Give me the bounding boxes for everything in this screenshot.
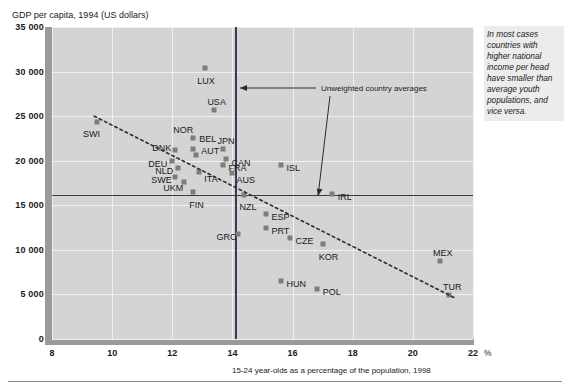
gridline-horizontal xyxy=(52,339,473,340)
y-axis-title: GDP per capita, 1994 (US dollars) xyxy=(12,10,148,20)
y-axis-tick-label: 25 000 xyxy=(0,111,52,121)
x-axis-tick-label: 22 xyxy=(468,348,478,358)
chart-figure: GDP per capita, 1994 (US dollars) SWILUX… xyxy=(0,0,570,388)
note-box: In most cases countries with higher nati… xyxy=(484,26,564,121)
callout-label: Unweighted country averages xyxy=(321,84,427,93)
y-axis-tick-label: 35 000 xyxy=(0,22,52,32)
x-axis-title: 15-24 year-olds as a percentage of the p… xyxy=(232,366,431,375)
y-axis-tick-label: 20 000 xyxy=(0,156,52,166)
y-axis-tick-label: 15 000 xyxy=(0,200,52,210)
x-axis-tick-label: 8 xyxy=(49,348,54,358)
gridline-vertical xyxy=(473,27,474,339)
x-axis-tick-label: 18 xyxy=(348,348,358,358)
y-axis-tick-label: 10 000 xyxy=(0,245,52,255)
plot-area: SWILUXUSANORBELDNKJPNAUTCANDEUFRANLDISLA… xyxy=(52,27,473,339)
y-axis-tick-label: 0 xyxy=(0,334,52,344)
x-axis-tick-label: 10 xyxy=(107,348,117,358)
y-axis-tick-label: 30 000 xyxy=(0,67,52,77)
x-axis-tick-label: 16 xyxy=(288,348,298,358)
y-axis-tick-label: 5 000 xyxy=(0,289,52,299)
x-axis-tick-label: 20 xyxy=(408,348,418,358)
trendline xyxy=(52,27,473,339)
bottom-divider xyxy=(8,381,562,382)
x-axis-tick-label: 12 xyxy=(167,348,177,358)
x-axis-unit: % xyxy=(484,348,492,358)
x-axis-tick-label: 14 xyxy=(227,348,237,358)
